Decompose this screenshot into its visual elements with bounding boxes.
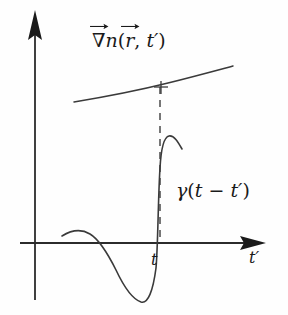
gradient-close-paren: ): [158, 29, 165, 51]
nabla-symbol: ∇: [92, 29, 106, 52]
prime-symbol: ′: [255, 248, 259, 267]
gamma-minus-sign: −: [202, 179, 230, 201]
nabla-vector-glyph: ∇: [92, 31, 106, 50]
gamma-close-paren: ): [242, 179, 249, 201]
position-vector-glyph: r: [125, 31, 134, 50]
density-gradient-curve: [74, 66, 233, 102]
position-symbol-r: r: [125, 29, 134, 51]
label-density-gradient: ∇ n( r , t′): [92, 31, 166, 50]
gradient-comma: ,: [134, 29, 146, 51]
figure-root: ∇ n( r , t′) γ(t − t′) t t′: [0, 0, 288, 315]
gamma-open-paren: (: [187, 179, 194, 201]
gamma-response-curve: [62, 136, 182, 302]
time-symbol-t: t: [146, 29, 154, 51]
x-axis-tick-label-t: t: [151, 252, 157, 268]
label-gamma-response: γ(t − t′): [176, 181, 250, 200]
density-symbol-n: n: [106, 29, 118, 51]
gamma-time-tprime: t: [230, 179, 238, 201]
x-axis-label: t′: [249, 250, 259, 266]
gamma-symbol: γ: [176, 179, 187, 201]
gradient-open-paren: (: [118, 29, 125, 51]
